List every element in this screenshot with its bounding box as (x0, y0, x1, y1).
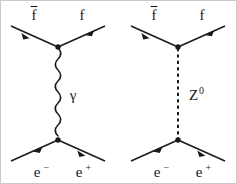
feynman-diagram-figure: f f γ e − e + (0, 0, 237, 184)
electron-label-group-photon: e − (34, 162, 50, 180)
z-boson-label-group: Z 0 (189, 85, 204, 103)
positron-charge-sup-z: + (206, 162, 212, 173)
electron-label-photon: e (34, 164, 41, 180)
positron-label-photon: e (76, 164, 83, 180)
electron-label-z: e (154, 164, 161, 180)
f-line-z (178, 26, 225, 47)
fbar-line-z (131, 26, 178, 47)
f-line-photon (58, 26, 105, 47)
fbar-label-group-photon: f (31, 7, 38, 24)
positron-label-z: e (196, 164, 203, 180)
electron-line-photon (11, 140, 58, 161)
fbar-line-photon (11, 26, 58, 47)
positron-label-group-z: e + (196, 162, 212, 180)
z-boson-charge-sup: 0 (199, 85, 204, 96)
electron-charge-sup-photon: − (44, 162, 50, 173)
photon-propagator-wavy (55, 48, 61, 136)
f-label-z: f (200, 7, 205, 23)
diagram-photon-exchange: f f γ e − e + (11, 7, 105, 181)
f-arrow-z (205, 31, 215, 37)
f-label-photon: f (80, 7, 85, 23)
z-boson-label: Z (189, 87, 198, 103)
positron-label-group-photon: e + (76, 162, 92, 180)
f-arrow-photon (85, 31, 95, 37)
positron-line-photon (58, 140, 105, 161)
electron-line-z (131, 140, 178, 161)
positron-line-z (178, 140, 225, 161)
fbar-label-z: f (152, 7, 157, 23)
diagram-z-boson-exchange: f f Z 0 e − e + (131, 7, 225, 181)
fbar-label-group-z: f (151, 7, 158, 24)
photon-label-gamma: γ (69, 87, 77, 103)
electron-label-group-z: e − (154, 162, 170, 180)
positron-charge-sup-photon: + (86, 162, 92, 173)
feynman-diagram-canvas: f f γ e − e + (0, 0, 237, 184)
fbar-label-photon: f (32, 7, 37, 23)
electron-charge-sup-z: − (164, 162, 170, 173)
